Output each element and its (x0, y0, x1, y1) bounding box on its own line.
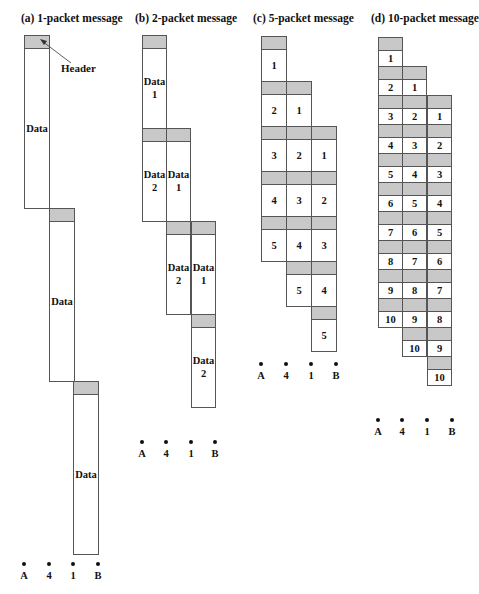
header-label: Header (61, 62, 96, 74)
